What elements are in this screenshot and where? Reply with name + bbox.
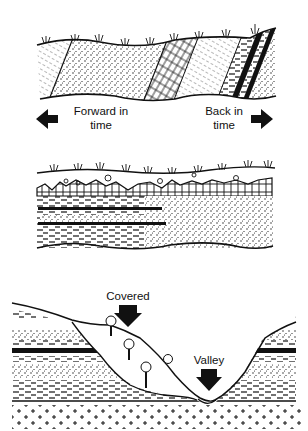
arrow-right-icon [251,109,273,129]
label-forward-line1: Forward in [66,104,136,118]
panel-valley-cross-section [8,290,302,429]
label-covered: Covered [100,289,156,303]
arrow-left-icon [36,109,58,129]
label-forward-line2: time [66,118,136,132]
label-back-in-time: Back in time [194,104,254,132]
label-forward-in-time: Forward in time [66,104,136,132]
label-back-line2: time [194,118,254,132]
geology-diagram [0,0,308,431]
panel-horizontal-strata [37,160,275,249]
label-back-line1: Back in [194,104,254,118]
label-valley: Valley [183,353,235,367]
